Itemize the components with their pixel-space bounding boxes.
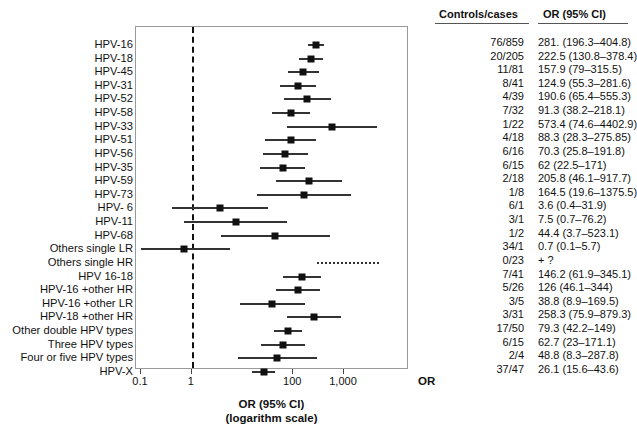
x-axis-or-tag: OR (418, 375, 435, 387)
row-label: HPV-18 +other HR (0, 310, 133, 322)
cell-controls-cases: 3/5 (434, 295, 524, 307)
cell-controls-cases: 7/32 (434, 104, 524, 116)
odds-ratio-marker (272, 232, 279, 239)
cell-controls-cases: 1/2 (434, 227, 524, 239)
x-axis-title: OR (95% CI) (logarithm scale) (135, 398, 408, 425)
cell-odds-ratio: 281. (196.3–404.8) (538, 36, 631, 48)
odds-ratio-marker (298, 273, 305, 280)
column-header-controls-cases: Controls/cases (439, 8, 518, 20)
cell-controls-cases: 7/41 (434, 268, 524, 280)
odds-ratio-marker (274, 355, 281, 362)
odds-ratio-marker (279, 341, 286, 348)
axis-tick-mark (343, 369, 344, 374)
row-label: HPV-33 (0, 120, 133, 132)
cell-controls-cases: 4/39 (434, 90, 524, 102)
row-label: HPV-68 (0, 229, 133, 241)
column-header-or: OR (95% CI) (543, 8, 606, 20)
cell-odds-ratio: 258.3 (75.9–879.3) (538, 308, 631, 320)
odds-ratio-marker (288, 110, 295, 117)
odds-ratio-marker (295, 82, 302, 89)
plot-area (135, 26, 408, 369)
confidence-interval-line (317, 262, 379, 264)
cell-odds-ratio: 126 (46.1–344) (538, 281, 613, 293)
row-label: Four or five HPV types (0, 351, 133, 363)
cell-controls-cases: 3/31 (434, 308, 524, 320)
axis-tick-mark (140, 369, 141, 374)
cell-odds-ratio: 3.6 (0.4–31.9) (538, 199, 607, 211)
x-axis-title-line1: OR (95% CI) (135, 398, 408, 412)
cell-odds-ratio: 164.5 (19.6–1375.5) (538, 186, 637, 198)
cell-controls-cases: 6/15 (434, 159, 524, 171)
plot-inner (136, 27, 407, 368)
row-label: HPV 16-18 (0, 270, 133, 282)
null-reference-line (192, 27, 194, 368)
cell-odds-ratio: 48.8 (8.3–287.8) (538, 349, 619, 361)
axis-tick-label: 1,000 (329, 375, 357, 387)
odds-ratio-marker (279, 164, 286, 171)
odds-ratio-marker (301, 191, 308, 198)
cell-odds-ratio: 44.4 (3.7–523.1) (538, 227, 619, 239)
cell-odds-ratio: 205.8 (46.1–917.7) (538, 172, 631, 184)
cell-controls-cases: 6/16 (434, 145, 524, 157)
cell-odds-ratio: 7.5 (0.7–76.2) (538, 213, 607, 225)
odds-ratio-marker (300, 69, 307, 76)
cell-controls-cases: 3/1 (434, 213, 524, 225)
cell-controls-cases: 11/81 (434, 63, 524, 75)
odds-ratio-marker (269, 300, 276, 307)
row-label: HPV-45 (0, 65, 133, 77)
row-label: HPV-56 (0, 147, 133, 159)
row-label: HPV-18 (0, 52, 133, 64)
cell-controls-cases: 20/205 (434, 50, 524, 62)
odds-ratio-marker (311, 314, 318, 321)
cell-controls-cases: 2/18 (434, 172, 524, 184)
row-label: HPV- 6 (0, 201, 133, 213)
row-label: HPV-16 +other HR (0, 283, 133, 295)
row-label: HPV-58 (0, 106, 133, 118)
cell-odds-ratio: 91.3 (38.2–218.1) (538, 104, 625, 116)
row-label: HPV-X (0, 365, 133, 377)
cell-odds-ratio: 573.4 (74.6–4402.9) (538, 118, 637, 130)
cell-odds-ratio: 79.3 (42.2–149) (538, 322, 616, 334)
odds-ratio-marker (295, 287, 302, 294)
odds-ratio-marker (304, 96, 311, 103)
row-label: Other double HPV types (0, 324, 133, 336)
row-label: HPV-11 (0, 215, 133, 227)
cell-controls-cases: 4/18 (434, 131, 524, 143)
odds-ratio-marker (287, 137, 294, 144)
row-label: Others single LR (0, 242, 133, 254)
row-label: HPV-52 (0, 92, 133, 104)
x-axis-title-line2: (logarithm scale) (135, 412, 408, 426)
odds-ratio-marker (282, 150, 289, 157)
cell-controls-cases: 5/26 (434, 281, 524, 293)
row-label: HPV-16 +other LR (0, 297, 133, 309)
odds-ratio-marker (285, 328, 292, 335)
row-label: HPV-51 (0, 133, 133, 145)
odds-ratio-marker (313, 42, 320, 49)
cell-odds-ratio: 38.8 (8.9–169.5) (538, 295, 619, 307)
row-label: HPV-35 (0, 161, 133, 173)
row-label: HPV-59 (0, 174, 133, 186)
cell-odds-ratio: 0.7 (0.1–5.7) (538, 240, 600, 252)
cell-controls-cases: 37/47 (434, 363, 524, 375)
header-rule-or (538, 23, 628, 24)
cell-controls-cases: 0/23 (434, 254, 524, 266)
odds-ratio-marker (328, 123, 335, 130)
odds-ratio-marker (306, 178, 313, 185)
cell-controls-cases: 1/8 (434, 186, 524, 198)
odds-ratio-marker (180, 246, 187, 253)
x-axis: 0.111001,000 (135, 369, 408, 399)
cell-controls-cases: 6/1 (434, 199, 524, 211)
row-label: Three HPV types (0, 338, 133, 350)
axis-tick-label: 0.1 (132, 375, 147, 387)
cell-controls-cases: 8/41 (434, 77, 524, 89)
header-rule-controls-cases (435, 23, 529, 24)
axis-tick-mark (191, 369, 192, 374)
cell-controls-cases: 76/859 (434, 36, 524, 48)
cell-controls-cases: 2/4 (434, 349, 524, 361)
cell-odds-ratio: 222.5 (130.8–378.4) (538, 50, 637, 62)
row-label: Others single HR (0, 256, 133, 268)
odds-ratio-marker (233, 219, 240, 226)
cell-odds-ratio: 146.2 (61.9–345.1) (538, 268, 631, 280)
cell-odds-ratio: 62 (22.5–171) (538, 159, 607, 171)
